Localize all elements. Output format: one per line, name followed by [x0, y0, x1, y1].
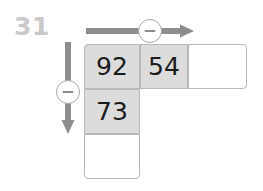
problem-number: 31 [14, 14, 50, 39]
grid-cell-row-middle[interactable]: 54 [140, 44, 188, 89]
minus-glyph [145, 30, 156, 32]
grid-cell-corner[interactable]: 92 [84, 44, 140, 89]
minus-glyph [63, 91, 74, 93]
vertical-minus-circle-icon[interactable] [56, 80, 80, 104]
grid-cell-row-answer[interactable] [188, 44, 247, 89]
worksheet-canvas: 31 92 54 73 [0, 0, 263, 191]
grid-cell-column-answer[interactable] [84, 134, 140, 179]
grid-cell-column-middle[interactable]: 73 [84, 89, 140, 134]
horizontal-minus-circle-icon[interactable] [138, 19, 162, 43]
